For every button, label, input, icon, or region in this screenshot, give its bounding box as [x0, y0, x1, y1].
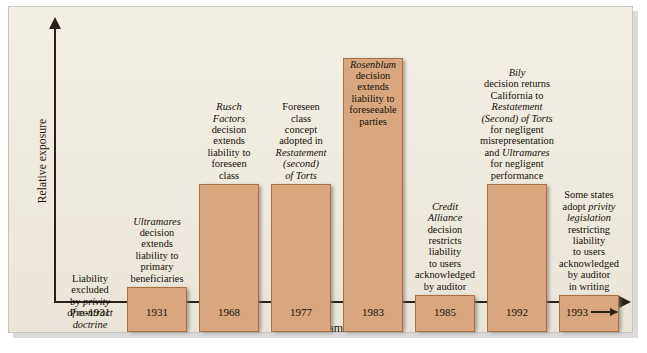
- caption-line: of Torts: [285, 170, 317, 181]
- caption-line: and Ultramares: [484, 147, 549, 158]
- caption-line: extends: [141, 238, 173, 249]
- caption-line: for negligent: [490, 158, 543, 169]
- caption-line: primary: [141, 261, 174, 272]
- caption-line: decision: [140, 227, 175, 238]
- x-tick-label: 1968: [199, 306, 259, 318]
- caption-line: Ultramares: [133, 216, 181, 227]
- bar-column[interactable]: Some states adopt privity legislation re…: [559, 38, 619, 332]
- figure-plate: Relative exposure Time frame Liability e…: [8, 6, 633, 333]
- caption-line: class: [291, 113, 311, 124]
- caption-line: California to: [491, 90, 544, 101]
- caption-line: restricting: [568, 224, 610, 235]
- caption-line: by auditor: [424, 281, 466, 292]
- caption-line: Restatement: [492, 101, 543, 112]
- caption-line: Credit: [432, 201, 458, 212]
- x-axis-arrowhead-icon: [619, 296, 631, 308]
- caption-line: liability to: [207, 147, 250, 158]
- x-tick-label: 1992: [487, 306, 547, 318]
- caption-line: extends: [357, 81, 389, 92]
- y-axis-label: Relative exposure: [36, 96, 48, 226]
- caption-line: liability to: [135, 250, 178, 261]
- caption-line: liability to: [351, 93, 394, 104]
- caption-line: parties: [359, 116, 387, 127]
- bar-caption: Credit Alliance decision restricts liabi…: [406, 201, 484, 292]
- caption-line: adopted in: [279, 135, 323, 146]
- caption-line: class: [219, 170, 239, 181]
- caption-line: acknowledged: [559, 258, 619, 269]
- caption-line: decision: [356, 70, 391, 81]
- x-tick-label: 1985: [415, 306, 475, 318]
- caption-line: Rosenblum: [350, 59, 396, 70]
- caption-line: misrepresentation: [480, 135, 554, 146]
- caption-line: excluded: [71, 284, 109, 295]
- caption-line: Alliance: [428, 212, 463, 223]
- caption-line: performance: [491, 170, 544, 181]
- caption-line: (Second) of Torts: [481, 113, 552, 124]
- x-tick-label: 1983: [343, 306, 403, 318]
- caption-line: liability: [573, 235, 605, 246]
- caption-line: in writing: [569, 281, 610, 292]
- bar-column[interactable]: Rosenblum decision extends liability to …: [343, 38, 403, 332]
- caption-line: foreseen: [211, 158, 246, 169]
- x-tick-label: Pre-1931: [56, 306, 124, 318]
- caption-line: extends: [213, 135, 245, 146]
- caption-line: decision returns: [484, 78, 550, 89]
- caption-line: concept: [285, 124, 317, 135]
- bar-column[interactable]: Bily decision returns California to Rest…: [487, 38, 547, 332]
- caption-line: foreseeable: [349, 104, 396, 115]
- caption-line: to users: [573, 246, 605, 257]
- caption-line: Factors: [213, 113, 245, 124]
- caption-line: adopt privity: [563, 201, 616, 212]
- caption-line: legislation: [567, 212, 611, 223]
- caption-line: for negligent: [490, 124, 543, 135]
- caption-line: restricts: [429, 235, 462, 246]
- x-tick-label: 1931: [127, 306, 187, 318]
- bar-caption: Liability excluded by privity of contrac…: [56, 273, 124, 330]
- caption-line: decision: [428, 224, 463, 235]
- bar-caption: Foreseen class concept adopted in Restat…: [271, 101, 331, 181]
- caption-line: (second): [283, 158, 319, 169]
- bar-column[interactable]: Rusch Factors decision extends liability…: [199, 38, 259, 332]
- caption-line: Restatement: [276, 147, 327, 158]
- bar-column[interactable]: Foreseen class concept adopted in Restat…: [271, 38, 331, 332]
- bar-caption: Rosenblum decision extends liability to …: [343, 59, 403, 127]
- caption-line: Rusch: [216, 101, 241, 112]
- figure-root: Relative exposure Time frame Liability e…: [0, 0, 647, 353]
- caption-line: Bily: [509, 67, 526, 78]
- caption-line: to users: [429, 258, 461, 269]
- caption-line: decision: [212, 124, 247, 135]
- bar-column[interactable]: Liability excluded by privity of contrac…: [56, 38, 124, 332]
- caption-line: by auditor: [568, 269, 610, 280]
- caption-line: doctrine: [73, 319, 108, 330]
- bar-caption: Rusch Factors decision extends liability…: [199, 101, 259, 181]
- caption-line: beneficiaries: [130, 273, 183, 284]
- caption-line: Foreseen: [282, 101, 320, 112]
- bar-caption: Ultramares decision extends liability to…: [127, 216, 187, 284]
- time-continues-arrow-icon: [591, 311, 617, 313]
- caption-line: acknowledged: [415, 269, 475, 280]
- caption-line: liability: [429, 246, 461, 257]
- caption-line: Some states: [564, 189, 613, 200]
- bar-caption: Some states adopt privity legislation re…: [544, 189, 634, 292]
- x-tick-label: 1977: [271, 306, 331, 318]
- bar-column[interactable]: Ultramares decision extends liability to…: [127, 38, 187, 332]
- caption-line: Liability: [72, 273, 108, 284]
